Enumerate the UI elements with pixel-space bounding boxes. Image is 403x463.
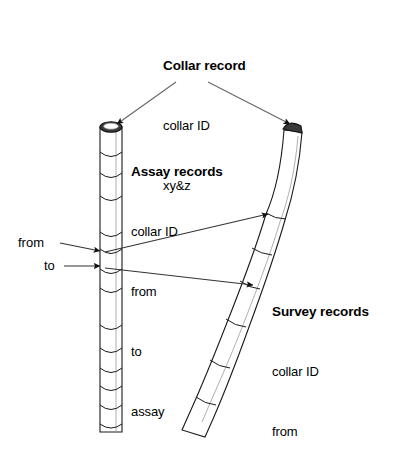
survey-record-field-collar-id: collar ID [272, 362, 369, 382]
vertical-hole-collar-opening [104, 123, 119, 129]
assay-record-field-to: to [131, 342, 223, 362]
drillhole-diagram: Collar record collar ID xy&z Assay recor… [0, 0, 403, 463]
collar-record-title: Collar record [163, 56, 246, 76]
assay-record-field-collar-id: collar ID [131, 222, 223, 242]
assay-record-field-assay: assay [131, 402, 223, 422]
callout-to-label: to [44, 256, 55, 276]
survey-record-title: Survey records [272, 302, 369, 322]
vertical-hole-body [100, 127, 122, 432]
assay-record-title: Assay records [131, 162, 223, 182]
callout-from-label: from [18, 233, 44, 253]
assay-record-field-from: from [131, 282, 223, 302]
vertical-drillhole [100, 122, 122, 432]
survey-record-label-block: Survey records collar ID from to azimuth… [272, 262, 369, 463]
connector-from-label [60, 243, 100, 251]
assay-record-label-block: Assay records collar ID from to assay [131, 122, 223, 462]
survey-record-field-from: from [272, 422, 369, 442]
